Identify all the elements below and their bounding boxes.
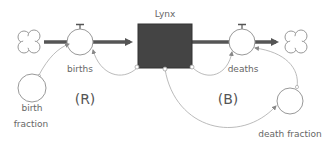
link-death-fraction-to-deaths <box>255 48 297 87</box>
balancing-loop-label: (B) <box>218 91 239 107</box>
deaths-valve[interactable] <box>229 25 255 56</box>
births-valve[interactable] <box>67 25 93 56</box>
reinforcing-loop-label: (R) <box>75 91 96 107</box>
sink-cloud-icon <box>285 30 307 53</box>
birth-fraction-label-line1: birth <box>21 103 42 113</box>
death-fraction-auxiliary[interactable] <box>277 88 303 114</box>
birth-fraction-auxiliary[interactable] <box>18 74 46 102</box>
stock-label: Lynx <box>155 9 176 19</box>
link-stock-to-births <box>93 50 137 75</box>
birth-fraction-label-line2: fraction <box>14 119 49 129</box>
lynx-stock[interactable] <box>138 24 192 68</box>
deaths-label: deaths <box>228 64 259 74</box>
source-cloud-icon <box>18 30 40 53</box>
death-fraction-label: death fraction <box>258 129 321 139</box>
stock-flow-diagram: Lynx births deaths birth fraction death … <box>0 0 327 157</box>
link-birth-fraction-to-births <box>39 44 69 75</box>
link-stock-to-deaths <box>193 52 232 75</box>
births-label: births <box>67 64 93 74</box>
